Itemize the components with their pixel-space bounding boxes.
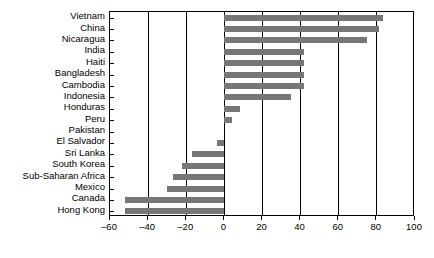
x-axis-label-20: 20 xyxy=(256,221,267,232)
y-tick-8 xyxy=(110,109,114,110)
y-tick-11 xyxy=(110,143,114,144)
horizontal-bar-chart: VietnamChinaNicaraguaIndiaHaitiBanglades… xyxy=(0,0,434,258)
bar-hong-kong xyxy=(125,208,224,214)
bar-india xyxy=(224,49,304,55)
x-tick--20 xyxy=(185,216,186,220)
y-tick-12 xyxy=(110,154,114,155)
bar-cambodia xyxy=(224,83,304,89)
y-axis-label-china: China xyxy=(80,23,105,33)
y-tick-13 xyxy=(110,166,114,167)
y-tick-6 xyxy=(110,86,114,87)
y-tick-9 xyxy=(110,120,114,121)
y-tick-17 xyxy=(110,211,114,212)
bar-bangladesh xyxy=(224,72,304,78)
y-axis-label-honduras: Honduras xyxy=(64,102,105,112)
y-tick-14 xyxy=(110,177,114,178)
x-tick--40 xyxy=(147,216,148,220)
y-tick-15 xyxy=(110,189,114,190)
x-tick-100 xyxy=(414,216,415,220)
x-tick-0 xyxy=(223,216,224,220)
y-axis-label-el-salvador: El Salvador xyxy=(56,136,105,146)
y-axis-label-india: India xyxy=(84,45,105,55)
y-axis-label-cambodia: Cambodia xyxy=(62,80,105,90)
x-tick-20 xyxy=(261,216,262,220)
y-axis-label-hong-kong: Hong Kong xyxy=(57,205,105,215)
x-axis-label-100: 100 xyxy=(406,221,422,232)
bar-sri-lanka xyxy=(192,151,224,157)
y-tick-4 xyxy=(110,63,114,64)
y-axis-label-sub-saharan-africa: Sub-Saharan Africa xyxy=(23,171,105,181)
y-axis-label-sri-lanka: Sri Lanka xyxy=(65,148,105,158)
y-tick-2 xyxy=(110,40,114,41)
y-axis-label-haiti: Haiti xyxy=(86,57,105,67)
gridline--40 xyxy=(148,12,149,215)
bar-peru xyxy=(224,117,232,123)
x-axis-label--20: –20 xyxy=(177,221,193,232)
y-axis-label-mexico: Mexico xyxy=(75,182,105,192)
x-tick--60 xyxy=(109,216,110,220)
y-tick-1 xyxy=(110,29,114,30)
bar-china xyxy=(224,26,378,32)
y-axis-label-canada: Canada xyxy=(72,193,105,203)
y-axis-label-vietnam: Vietnam xyxy=(70,11,105,21)
y-tick-7 xyxy=(110,97,114,98)
y-axis-label-pakistan: Pakistan xyxy=(69,125,105,135)
x-tick-60 xyxy=(337,216,338,220)
y-axis-label-indonesia: Indonesia xyxy=(64,91,105,101)
gridline-80 xyxy=(376,12,377,215)
bar-vietnam xyxy=(224,15,382,21)
x-axis-label-80: 80 xyxy=(371,221,382,232)
y-axis-label-south-korea: South Korea xyxy=(52,159,105,169)
y-tick-16 xyxy=(110,200,114,201)
bar-haiti xyxy=(224,60,304,66)
y-tick-10 xyxy=(110,132,114,133)
x-axis-label--40: –40 xyxy=(139,221,155,232)
x-axis-label--60: –60 xyxy=(101,221,117,232)
x-axis-label-40: 40 xyxy=(294,221,305,232)
bar-el-salvador xyxy=(217,140,225,146)
plot-area xyxy=(109,11,414,216)
y-axis-label-peru: Peru xyxy=(85,114,105,124)
bar-indonesia xyxy=(224,94,291,100)
bar-sub-saharan-africa xyxy=(173,174,224,180)
x-axis-label-0: 0 xyxy=(221,221,226,232)
y-tick-5 xyxy=(110,75,114,76)
y-axis-label-nicaragua: Nicaragua xyxy=(62,34,105,44)
bar-nicaragua xyxy=(224,37,367,43)
y-tick-0 xyxy=(110,18,114,19)
x-tick-80 xyxy=(375,216,376,220)
bar-mexico xyxy=(167,186,224,192)
x-tick-40 xyxy=(299,216,300,220)
y-axis-category-labels: VietnamChinaNicaraguaIndiaHaitiBanglades… xyxy=(0,11,105,216)
bar-canada xyxy=(125,197,224,203)
y-tick-3 xyxy=(110,52,114,53)
y-axis-label-bangladesh: Bangladesh xyxy=(55,68,105,78)
x-axis-label-60: 60 xyxy=(332,221,343,232)
bar-south-korea xyxy=(182,163,224,169)
bar-honduras xyxy=(224,106,239,112)
